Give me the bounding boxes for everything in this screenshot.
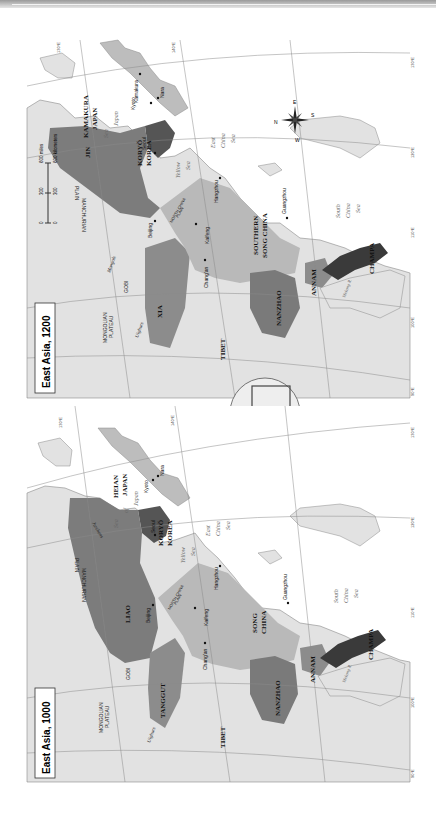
compass-n: N xyxy=(274,119,278,125)
label-liao: LIAO xyxy=(124,605,132,623)
label-tanggut: TANGGUT xyxy=(159,683,167,718)
grid-90e: 90°E xyxy=(410,769,415,778)
city-nara: Nara xyxy=(159,465,165,476)
label-south-china-sea-3: Sea xyxy=(355,204,361,213)
label-yellow-sea-2: Sea xyxy=(190,547,196,556)
label-manchurian-plain: PLAIN xyxy=(74,186,80,201)
grid-100e: 100°E xyxy=(410,697,415,708)
label-manchurian-plain: PLAIN xyxy=(74,558,80,573)
city-nara: Nara xyxy=(159,87,165,98)
label-song-china: SONG CHINA xyxy=(261,213,269,258)
label-east-china-sea: East xyxy=(210,137,216,149)
label-sea-of-japan: Sea xyxy=(103,129,109,138)
grid-130e-right: 130°E xyxy=(410,57,415,68)
grid-130e: 130°E xyxy=(58,417,63,428)
city-kaifeng: Kaifeng xyxy=(204,227,210,244)
grid-140e: 140°E xyxy=(171,42,176,53)
grid-130e: 130°E xyxy=(56,42,61,53)
label-tibet: TIBET xyxy=(219,726,227,748)
grid-120e: 120°E xyxy=(410,517,415,528)
label-jin: JIN xyxy=(84,147,92,158)
label-yellow-sea: Yellow xyxy=(175,162,181,178)
label-japan-water: Japan xyxy=(113,111,119,126)
book-page: N S E W 600 miles 600 kilometers 300 300… xyxy=(0,8,436,825)
map-title-1000: East Asia, 1000 xyxy=(35,688,55,778)
grid-140e: 140°E xyxy=(170,415,175,426)
city-hangzhou: Hangzhou xyxy=(213,567,219,590)
label-south-china-sea: South xyxy=(333,589,339,603)
grid-120e: 120°E xyxy=(410,147,415,158)
label-annam: ANNAM xyxy=(309,656,317,683)
grid-100e: 100°E xyxy=(410,317,415,328)
label-korea: KOREA xyxy=(166,520,174,546)
label-nanzhao: NANZHAO xyxy=(274,680,282,716)
label-sea-of-japan: Sea xyxy=(113,519,119,528)
label-south-china-sea-2: China xyxy=(345,203,351,218)
label-japan: JAPAN xyxy=(91,108,99,130)
label-yellow-sea-2: Sea xyxy=(185,161,191,170)
label-manchurian: MANCHURIAN xyxy=(81,198,87,232)
label-japan-water: Japan xyxy=(133,491,139,506)
grid-110e: 110°E xyxy=(410,607,415,618)
label-plateau: PLATEAU xyxy=(108,315,114,338)
rotated-maps-canvas: N S E W 600 miles 600 kilometers 300 300… xyxy=(0,8,436,825)
label-south-china-sea: South xyxy=(335,204,341,218)
map-east-asia-1000: LIAO TANGGUT KORYŎ KOREA HEIAN JAPAN SON… xyxy=(27,406,415,782)
label-plateau: PLATEAU xyxy=(104,705,110,728)
map-title-text: East Asia, 1000 xyxy=(41,701,52,774)
label-east-china-sea-2: China xyxy=(215,521,221,536)
label-east-china-sea-3: Sea xyxy=(225,521,231,530)
label-annam: ANNAM xyxy=(310,269,318,296)
scale-tick-300mi: 300 xyxy=(39,187,44,195)
label-east-china-sea-2: China xyxy=(220,133,226,148)
grid-90e: 90°E xyxy=(410,387,415,396)
city-beijing: Beijing xyxy=(145,608,151,623)
label-tibet: TIBET xyxy=(219,338,227,360)
city-beijing: Beijing xyxy=(147,223,153,238)
city-seoul: Seoul xyxy=(141,137,147,150)
label-champa: CHAMPA xyxy=(367,629,375,660)
label-east-china-sea: East xyxy=(205,525,211,537)
label-champa: CHAMPA xyxy=(368,243,376,274)
label-east-china-sea-3: Sea xyxy=(230,134,236,143)
grid-130e-right: 130°E xyxy=(410,427,415,438)
city-guangzhou: Guangzhou xyxy=(282,574,288,600)
compass-w: W xyxy=(295,137,300,143)
scale-miles-label: 600 miles xyxy=(39,143,44,163)
label-kamakura: KAMAKURA xyxy=(82,95,90,138)
label-japan: JAPAN xyxy=(121,474,129,496)
city-guangzhou: Guangzhou xyxy=(281,188,287,214)
city-kaifeng: Kaifeng xyxy=(203,609,209,626)
label-gobi: GOBI xyxy=(123,280,129,293)
label-nanzhao: NANZHAO xyxy=(275,290,283,326)
scale-tick-300km: 300 xyxy=(53,187,58,195)
label-song: SONG xyxy=(251,613,259,633)
map-east-asia-1200: N S E W 600 miles 600 kilometers 300 300… xyxy=(27,40,415,448)
label-xia: XIA xyxy=(156,305,164,318)
city-kyoto: Kyoto xyxy=(143,480,149,493)
city-changan: Chang'an xyxy=(202,649,208,670)
city-kamakura: Kamakura xyxy=(133,80,139,103)
label-south-china-sea-2: China xyxy=(343,588,349,603)
map-title-1200: East Asia, 1200 xyxy=(35,303,55,393)
label-southern: SOUTHERN xyxy=(252,216,260,255)
label-south-china-sea-3: Sea xyxy=(353,589,359,598)
page-top-edge xyxy=(0,0,436,8)
label-heian: HEIAN xyxy=(112,475,120,498)
grid-110e: 110°E xyxy=(410,227,415,238)
label-china: CHINA xyxy=(260,611,268,634)
label-manchurian: MANCHURIAN xyxy=(81,568,87,602)
label-yellow-sea: Yellow xyxy=(180,547,186,563)
city-hangzhou: Hangzhou xyxy=(213,180,219,203)
label-gobi: GOBI xyxy=(125,667,131,680)
label-koryo: KORYŎ xyxy=(157,519,165,546)
scale-km-label: 600 kilometers xyxy=(53,133,58,163)
city-changan: Chang'an xyxy=(203,267,209,288)
city-seoul: Seoul xyxy=(150,520,156,533)
map-title-text: East Asia, 1200 xyxy=(41,315,52,388)
